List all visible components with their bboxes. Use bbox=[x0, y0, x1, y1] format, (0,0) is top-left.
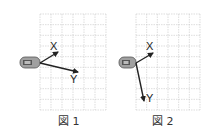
device-2 bbox=[119, 57, 136, 68]
figure-caption-2: 図 2 bbox=[152, 115, 174, 128]
x-axis-arrow-2 bbox=[136, 53, 153, 63]
x-axis-label-2: X bbox=[146, 40, 154, 52]
device-1 bbox=[20, 57, 40, 68]
figure-2: X Y 図 2 bbox=[119, 14, 200, 128]
x-axis-label-1: X bbox=[50, 40, 58, 52]
diagram-canvas: X Y 図 1 X Y 図 2 bbox=[0, 0, 214, 139]
figure-caption-1: 図 1 bbox=[58, 115, 80, 128]
grid-1 bbox=[40, 14, 106, 110]
y-axis-label-1: Y bbox=[70, 73, 78, 85]
y-axis-arrow-2 bbox=[136, 63, 144, 101]
y-axis-label-2: Y bbox=[146, 92, 154, 104]
figure-1: X Y 図 1 bbox=[20, 14, 106, 128]
x-axis-arrow-1 bbox=[40, 52, 58, 63]
